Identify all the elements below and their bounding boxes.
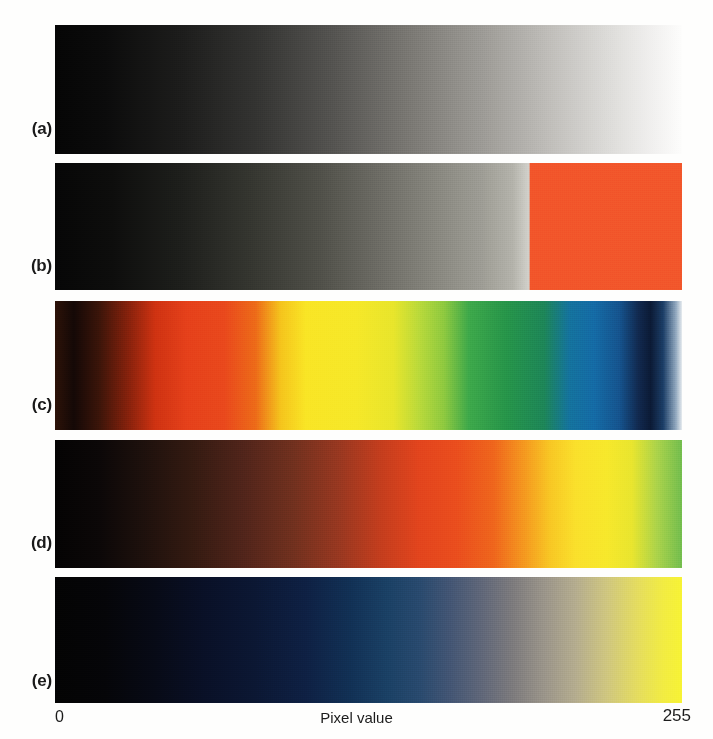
panel-letter-a: (a) [12,119,52,139]
panel-letter-b: (b) [12,256,52,276]
axis-tick-max: 255 [663,706,691,726]
gradient-swatch-c [55,301,682,430]
gradient-swatch-e [55,577,682,703]
panel-letter-e: (e) [12,671,52,691]
gradient-swatch-b [55,163,682,290]
colormap-bar-blue-to-yellow [55,577,682,703]
colormap-bar-spectrum [55,301,682,430]
panel-letter-d: (d) [12,533,52,553]
gradient-swatch-d [55,440,682,568]
colormap-bar-grayscale-saturation [55,163,682,290]
colormap-figure: (a) (b) (c) (d) (e) 0 Pixel value 255 [0,0,713,739]
axis-title: Pixel value [0,709,713,726]
panel-letter-c: (c) [12,395,52,415]
colormap-bar-heated-object [55,440,682,568]
gradient-swatch-a [55,25,682,154]
colormap-bar-grayscale [55,25,682,154]
